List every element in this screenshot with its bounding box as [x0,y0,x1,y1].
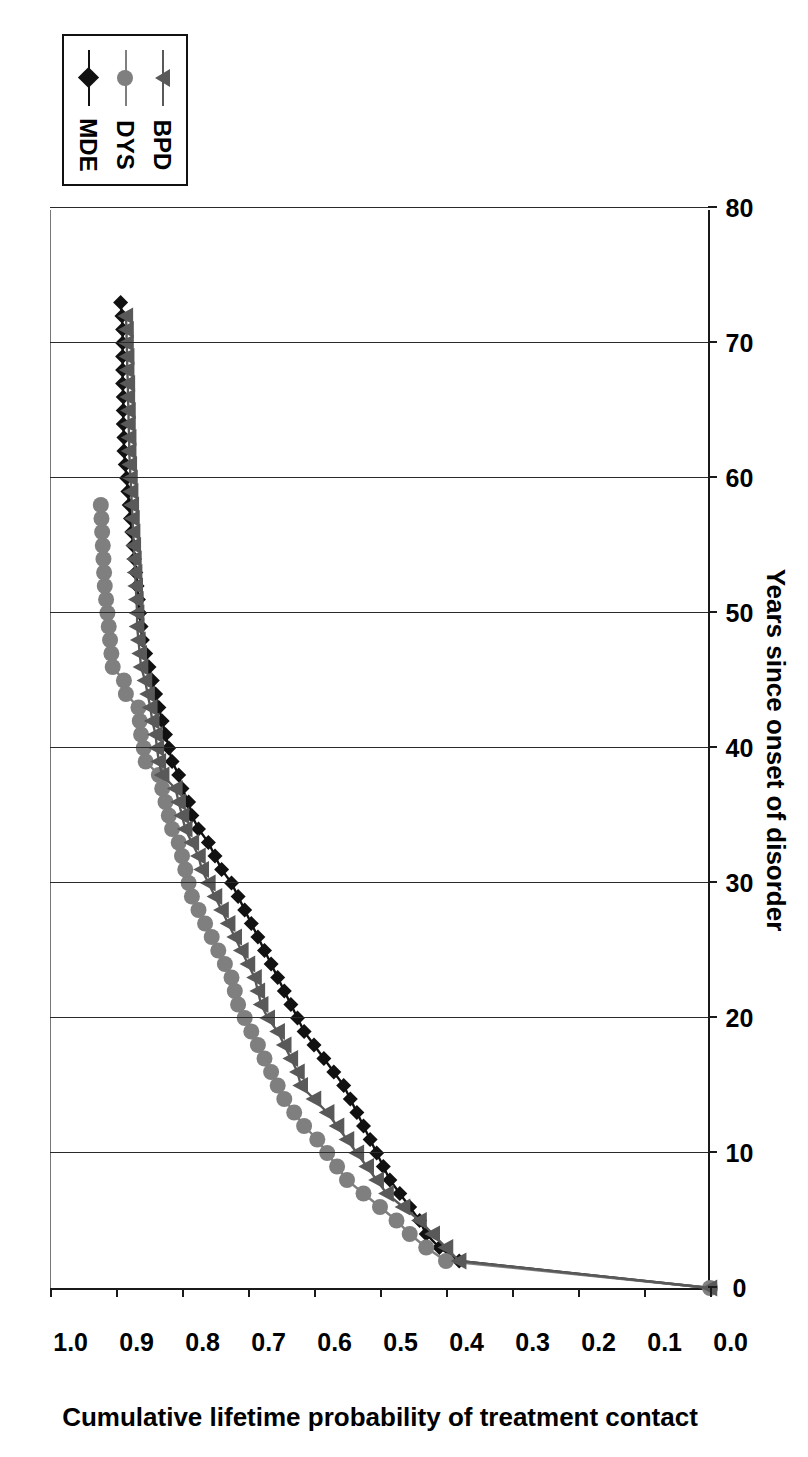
data-point-marker [133,727,149,743]
data-point-marker [244,916,259,931]
legend-item-dys: DYS [111,50,139,174]
data-point-marker [277,984,292,999]
data-point-marker [102,632,118,648]
legend-label: BPD [148,116,176,174]
grid-line-x [50,1017,708,1018]
grid-line-x [50,342,708,343]
data-point-marker [231,889,246,904]
data-point-marker [165,754,180,769]
rotated-figure-wrapper: 010203040506070800.00.10.20.30.40.50.60.… [0,0,808,1457]
chart-legend: MDEDYSBPD [62,34,188,186]
grid-line-x [50,477,708,478]
legend-diamond-marker-icon [77,67,98,88]
data-point-marker [171,768,186,783]
y-axis-title: Cumulative lifetime probability of treat… [50,1087,710,1457]
data-point-marker [101,619,117,635]
data-point-marker [103,646,119,662]
data-point-marker [105,659,121,675]
legend-label: MDE [74,116,102,174]
data-point-marker [257,943,272,958]
grid-line-x [50,612,708,613]
grid-line-x [50,207,708,208]
data-point-marker [264,957,279,972]
data-point-marker [99,605,115,621]
data-point-marker [177,862,193,878]
grid-line-x [50,747,708,748]
data-point-marker [270,970,285,985]
legend-item-mde: MDE [74,50,102,174]
data-point-marker [269,1023,285,1040]
data-point-marker [290,1011,305,1026]
data-point-marker [283,997,298,1012]
legend-key-circle-icon [115,50,135,106]
data-point-marker [93,497,109,513]
data-point-marker [230,997,246,1013]
data-point-marker [237,903,252,918]
legend-circle-marker-icon [117,70,133,86]
legend-key-triangle-icon [152,50,172,106]
data-point-marker [174,848,190,864]
x-axis-title: Years since onset of disorder [760,210,791,1290]
chart-figure: 010203040506070800.00.10.20.30.40.50.60.… [0,0,808,1457]
legend-key-diamond-icon [78,50,98,106]
grid-line-x [50,882,708,883]
data-point-marker [184,889,200,905]
y-axis-tick [710,1288,712,1297]
data-point-marker [98,592,114,608]
data-point-marker [181,875,197,891]
legend-triangle-marker-icon [155,69,170,87]
data-point-marker [227,983,243,999]
data-point-marker [250,930,265,945]
legend-label: DYS [111,116,139,174]
data-point-marker [116,673,132,689]
data-point-marker [118,686,134,702]
legend-item-bpd: BPD [148,50,176,174]
data-point-marker [113,295,128,310]
data-point-marker [208,849,223,864]
